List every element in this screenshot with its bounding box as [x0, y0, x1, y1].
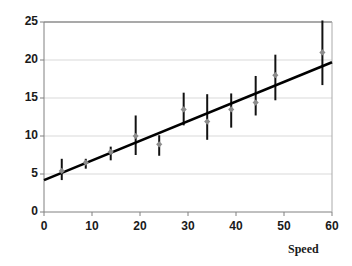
x-axis-title: Speed — [288, 242, 319, 257]
data-marker-10 — [319, 49, 325, 55]
y-tick-label-20: 20 — [10, 52, 38, 66]
y-tick-label-5: 5 — [10, 166, 38, 180]
data-point-markers — [59, 49, 326, 174]
x-tick-label-20: 20 — [125, 219, 155, 233]
x-tick-label-60: 60 — [317, 219, 347, 233]
y-tick-label-15: 15 — [10, 90, 38, 104]
axis-tick-marks — [40, 22, 332, 216]
data-marker-3 — [133, 133, 139, 139]
y-tick-label-25: 25 — [10, 14, 38, 28]
x-tick-label-40: 40 — [221, 219, 251, 233]
data-marker-5 — [181, 106, 187, 112]
data-marker-9 — [272, 72, 278, 78]
y-tick-label-10: 10 — [10, 128, 38, 142]
data-marker-4 — [156, 141, 162, 147]
data-marker-8 — [253, 99, 259, 105]
x-tick-label-50: 50 — [269, 219, 299, 233]
data-marker-6 — [204, 118, 210, 124]
plot-area-border — [44, 22, 332, 212]
x-tick-label-30: 30 — [173, 219, 203, 233]
data-marker-7 — [228, 106, 234, 112]
x-tick-label-0: 0 — [29, 219, 59, 233]
gridlines — [44, 22, 332, 174]
chart-container: 2520151050 0102030405060 Speed — [0, 0, 352, 266]
y-tick-label-0: 0 — [10, 204, 38, 218]
x-tick-label-10: 10 — [77, 219, 107, 233]
